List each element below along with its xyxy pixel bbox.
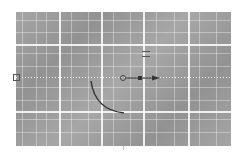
circle-handle-icon [121,76,126,81]
filled-square-handle-icon [138,76,142,80]
arrow-right-icon [152,76,160,81]
equals-marker-icon [142,51,150,57]
transform-gizmo[interactable] [0,0,239,157]
ruler-tick [123,146,124,150]
